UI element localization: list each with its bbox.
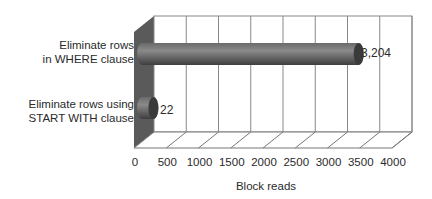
bar-chart: Eliminate rows in WHERE clause Eliminate…	[0, 0, 432, 199]
x-tick-label: 1000	[187, 156, 213, 168]
category-label-start-with: Eliminate rows using START WITH clause	[29, 97, 134, 125]
category-label-line: START WITH clause	[29, 111, 134, 125]
bar-cylinder	[137, 97, 158, 119]
category-label-line: in WHERE clause	[43, 52, 134, 66]
x-tick-label: 3000	[316, 156, 342, 168]
x-axis-label: Block reads	[236, 180, 296, 192]
x-tick-label: 500	[158, 156, 177, 168]
x-tick-label: 2000	[251, 156, 277, 168]
value-label: 3,204	[361, 46, 391, 60]
category-label-line: Eliminate rows	[43, 38, 134, 52]
side-wall	[134, 16, 154, 148]
category-label-where: Eliminate rows in WHERE clause	[43, 38, 134, 66]
x-tick-label: 0	[132, 156, 138, 168]
bar-cylinder	[137, 43, 364, 65]
x-tick-label: 4000	[380, 156, 406, 168]
category-label-line: Eliminate rows using	[29, 97, 134, 111]
value-label: 22	[160, 103, 173, 117]
x-tick-label: 1500	[219, 156, 245, 168]
x-tick-label: 3500	[348, 156, 374, 168]
x-tick-label: 2500	[283, 156, 309, 168]
